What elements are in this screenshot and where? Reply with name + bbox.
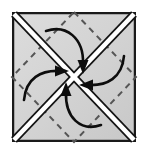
fold-diagram-container: Origami fold diagram Square sheet with b… <box>0 0 147 155</box>
origami-fold-diagram: Origami fold diagram Square sheet with b… <box>0 0 147 155</box>
